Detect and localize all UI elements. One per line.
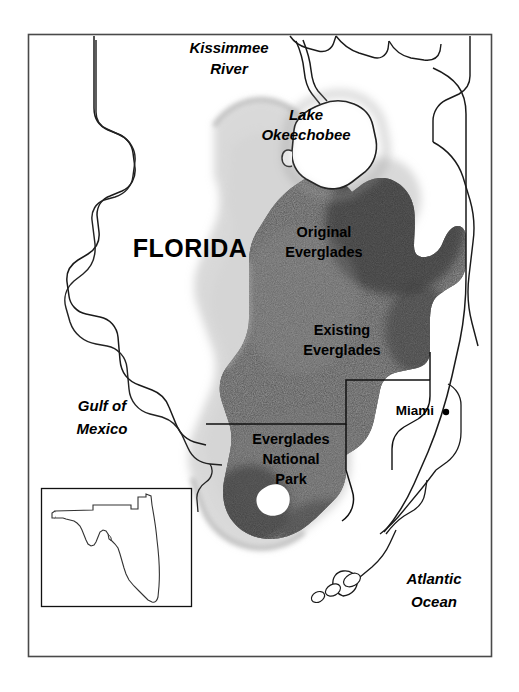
map-svg: Kissimmee River Lake Okeechobee FLORIDA … bbox=[0, 0, 519, 692]
label-atlantic-ocean-line2: Ocean bbox=[411, 593, 457, 610]
label-kissimmee-river-line2: River bbox=[210, 60, 249, 77]
label-kissimmee-river-line1: Kissimmee bbox=[189, 39, 268, 56]
label-everglades-national-park-line3: Park bbox=[275, 471, 307, 487]
inset-panhandle-tip bbox=[52, 511, 55, 518]
miami-city-dot bbox=[443, 409, 449, 415]
everglades-map-figure: Kissimmee River Lake Okeechobee FLORIDA … bbox=[0, 0, 519, 692]
label-original-everglades-line1: Original bbox=[297, 224, 352, 240]
florida-locator-inset bbox=[42, 489, 192, 607]
label-existing-everglades-line1: Existing bbox=[314, 322, 370, 338]
label-miami: Miami bbox=[396, 403, 434, 418]
label-gulf-of-mexico-line1: Gulf of bbox=[78, 397, 128, 414]
label-florida-state: FLORIDA bbox=[133, 234, 248, 262]
label-everglades-national-park-line1: Everglades bbox=[252, 431, 329, 447]
label-lake-okeechobee-line1: Lake bbox=[289, 106, 323, 123]
label-lake-okeechobee-line2: Okeechobee bbox=[261, 126, 350, 143]
label-everglades-national-park-line2: National bbox=[262, 451, 319, 467]
label-existing-everglades-line2: Everglades bbox=[303, 342, 380, 358]
label-atlantic-ocean-line1: Atlantic bbox=[405, 570, 462, 587]
label-gulf-of-mexico-line2: Mexico bbox=[77, 420, 128, 437]
label-original-everglades-line2: Everglades bbox=[285, 244, 362, 260]
